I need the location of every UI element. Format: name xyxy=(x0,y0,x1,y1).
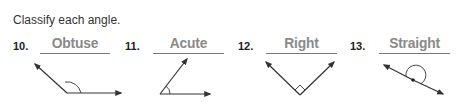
acute-angle-diagram xyxy=(160,59,210,94)
vertex-point-icon xyxy=(411,78,415,82)
obtuse-angle-diagram xyxy=(35,64,121,93)
straight-angle-diagram xyxy=(384,65,443,94)
right-angle-diagram xyxy=(266,62,334,95)
angle-diagrams xyxy=(0,0,465,105)
angle-arc-icon xyxy=(166,86,170,94)
right-angle-square-icon xyxy=(295,85,305,95)
angle-arc-icon xyxy=(65,82,81,93)
